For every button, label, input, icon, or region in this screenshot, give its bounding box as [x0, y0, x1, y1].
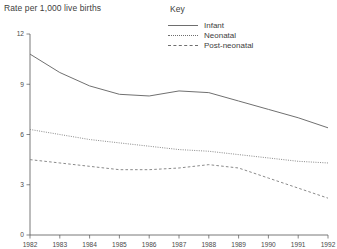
x-tick-label: 1984: [82, 241, 97, 248]
x-tick-label: 1992: [321, 241, 336, 248]
series-line-neonatal: [30, 129, 328, 163]
y-axis-ticks: 036912: [17, 30, 30, 238]
y-tick-label: 0: [20, 231, 24, 238]
chart-container: Rate per 1,000 live births Key Infant Ne…: [0, 0, 337, 249]
x-tick-label: 1986: [142, 241, 157, 248]
x-tick-label: 1982: [23, 241, 38, 248]
series-line-infant: [30, 54, 328, 128]
y-tick-label: 6: [20, 131, 24, 138]
series-line-post-neonatal: [30, 160, 328, 199]
y-tick-label: 3: [20, 181, 24, 188]
x-tick-label: 1990: [261, 241, 276, 248]
plot-area: 036912 198219831984198519861987198819891…: [0, 0, 337, 249]
y-tick-label: 9: [20, 81, 24, 88]
x-tick-label: 1985: [112, 241, 127, 248]
y-tick-label: 12: [17, 30, 25, 37]
data-series-group: [30, 54, 328, 198]
x-tick-label: 1987: [172, 241, 187, 248]
x-tick-label: 1983: [52, 241, 67, 248]
x-axis-ticks: 1982198319841985198619871988198919901991…: [23, 235, 336, 248]
x-tick-label: 1989: [231, 241, 246, 248]
x-tick-label: 1988: [201, 241, 216, 248]
x-tick-label: 1991: [291, 241, 306, 248]
